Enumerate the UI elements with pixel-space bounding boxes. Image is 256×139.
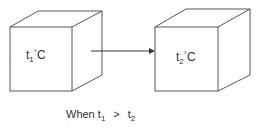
box1-label: t1°C: [26, 48, 46, 64]
cube-2: [155, 9, 250, 91]
condition-caption: When t1>t2: [66, 108, 135, 123]
heat-flow-arrow: [91, 48, 155, 54]
cube-1: [10, 11, 102, 91]
box2-label: t2°C: [176, 50, 196, 66]
